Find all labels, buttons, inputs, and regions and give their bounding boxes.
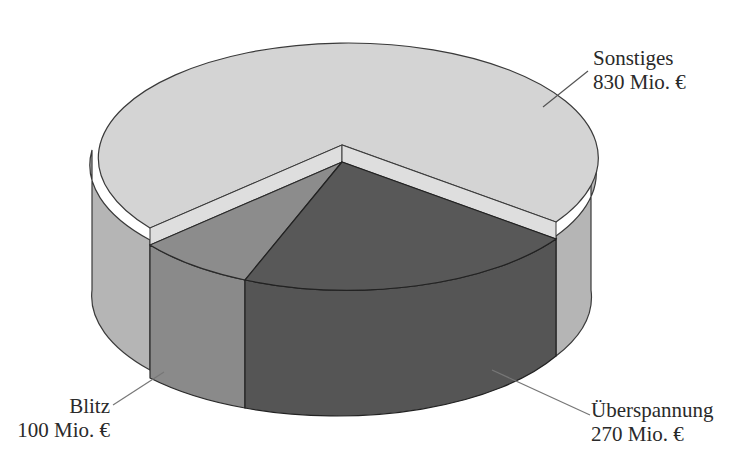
label-ueberspannung: Überspannung 270 Mio. € (591, 398, 713, 446)
label-sonstiges-value: 830 Mio. € (593, 70, 686, 94)
leader-line-ueberspannung (492, 370, 590, 415)
label-ueberspannung-value: 270 Mio. € (591, 422, 713, 446)
label-blitz-name: Blitz (5, 394, 110, 418)
label-blitz-value: 100 Mio. € (5, 418, 110, 442)
label-blitz: Blitz 100 Mio. € (5, 394, 110, 442)
label-sonstiges: Sonstiges 830 Mio. € (593, 46, 686, 94)
leader-line-blitz (113, 372, 164, 405)
label-ueberspannung-name: Überspannung (591, 398, 713, 422)
label-sonstiges-name: Sonstiges (593, 46, 686, 70)
